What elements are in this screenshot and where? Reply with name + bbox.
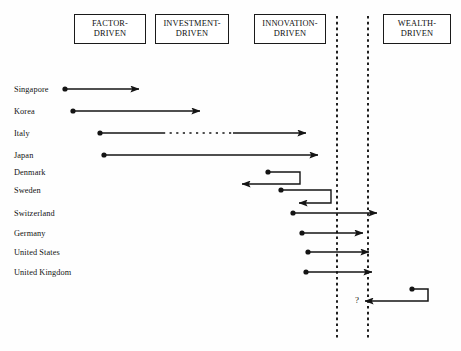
- arrow-sweden-regression: [281, 190, 331, 203]
- wealth-regression-arrow: [365, 289, 428, 301]
- diagram-canvas: FACTOR- DRIVEN INVESTMENT- DRIVEN INNOVA…: [0, 0, 461, 351]
- arrow-denmark-regression: [242, 172, 300, 184]
- arrow-layer: [0, 0, 461, 351]
